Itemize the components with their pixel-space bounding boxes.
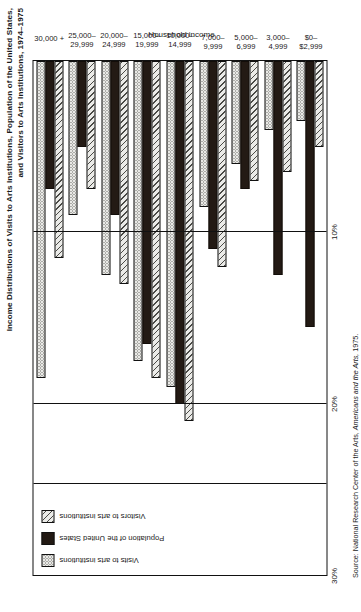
gridline-10	[33, 231, 326, 232]
category-label-text: 25,000–29,999	[67, 31, 94, 50]
bar-visitors	[54, 61, 63, 258]
chart-figure: Income Distributions of Visits to Arts I…	[0, 0, 361, 612]
chart-title-line-1: Income Distributions of Visits to Arts I…	[4, 8, 13, 331]
bar-group	[196, 61, 229, 575]
category-label-text: $0–$2,999	[299, 33, 322, 52]
bar-group	[98, 61, 131, 575]
bar-group	[228, 61, 261, 575]
category-label: 15,000–19,999	[130, 0, 163, 58]
tick-label-20: 20%	[329, 396, 338, 412]
bar-visits	[36, 61, 45, 378]
bar-population	[45, 61, 54, 190]
bar-visitors	[217, 61, 226, 267]
bar-group	[294, 61, 327, 575]
axis-title: Household income	[147, 31, 213, 40]
bar-group	[261, 61, 294, 575]
bar-visits	[231, 61, 240, 164]
bar-visitors	[184, 61, 193, 421]
source-prefix: Source: National Research Center of the …	[350, 430, 359, 578]
category-label: 7,000–9,999	[196, 0, 229, 58]
chart-title-line-2: and Visitors to Arts Institutions, 1974–…	[15, 8, 26, 612]
category-labels: 30,000 +25,000–29,99920,000–24,99915,000…	[32, 0, 327, 58]
bar-group	[66, 61, 99, 575]
bar-population	[240, 61, 249, 190]
bar-visits	[166, 61, 175, 387]
bar-population	[142, 61, 151, 344]
source-note: Source: National Research Center of the …	[350, 334, 359, 578]
bar-visitors	[282, 61, 291, 172]
tick-label-10: 10%	[329, 224, 338, 240]
source-title: Americans and the Arts,	[350, 354, 359, 430]
bar-group	[163, 61, 196, 575]
bar-visitors	[314, 61, 323, 147]
bar-visitors	[119, 61, 128, 284]
category-label-text: 3,000–4,999	[266, 33, 289, 52]
category-label-text: 5,000–6,999	[233, 33, 256, 52]
bar-visits	[199, 61, 208, 207]
category-label: 3,000–4,999	[261, 0, 294, 58]
tick-label-30: 30%	[329, 568, 338, 584]
category-label: $0–$2,999	[294, 0, 327, 58]
bar-population	[77, 61, 86, 147]
bar-population	[305, 61, 314, 327]
bar-visitors	[86, 61, 95, 190]
bar-population	[273, 61, 282, 275]
rotated-figure-wrapper: Income Distributions of Visits to Arts I…	[0, 0, 361, 612]
bar-groups	[33, 61, 326, 575]
plot-area: Visits to arts institutionsPopulation of…	[32, 60, 327, 576]
category-label: 25,000–29,999	[65, 0, 98, 58]
bar-visits	[101, 61, 110, 275]
category-label: 30,000 +	[32, 0, 65, 58]
bar-visits	[68, 61, 77, 215]
bar-visits	[296, 61, 305, 121]
gridline-20	[33, 403, 326, 404]
bar-group	[131, 61, 164, 575]
bar-visitors	[151, 61, 160, 378]
category-label: 10,000–14,999	[163, 0, 196, 58]
category-label-text: 30,000 +	[33, 34, 63, 43]
category-label: 20,000–24,999	[98, 0, 131, 58]
bar-visits	[264, 61, 273, 130]
category-label-text: 20,000–24,999	[100, 31, 127, 50]
bar-visits	[133, 61, 142, 361]
source-suffix: 1975.	[350, 334, 359, 354]
category-label: 5,000–6,999	[229, 0, 262, 58]
chart-title: Income Distributions of Visits to Arts I…	[4, 8, 26, 612]
bar-population	[208, 61, 217, 249]
bar-population	[110, 61, 119, 215]
bar-visitors	[249, 61, 258, 181]
bar-group	[33, 61, 66, 575]
